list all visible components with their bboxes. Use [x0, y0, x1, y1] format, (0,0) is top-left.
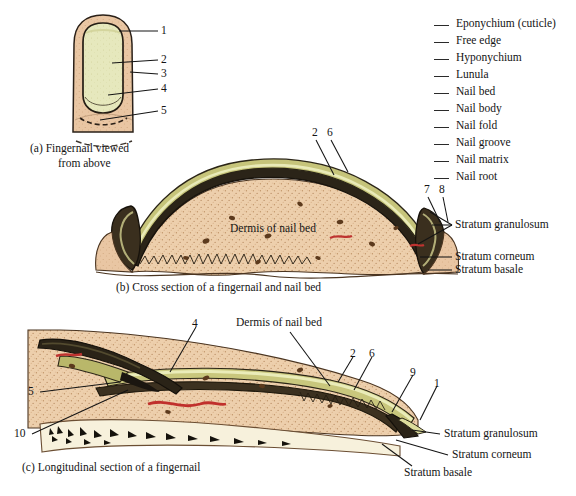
legend-label: Nail fold: [456, 119, 497, 131]
legend-label: Lunula: [456, 68, 489, 80]
panel-a-artwork: [73, 15, 158, 146]
legend-list: Eponychium (cuticle) Free edge Hyponychi…: [434, 14, 576, 194]
panel-c-artwork: [28, 327, 448, 466]
panel-c-stratum-basale-label: Stratum basale: [404, 466, 472, 479]
legend-blank-icon[interactable]: [434, 42, 449, 43]
panel-c-number-9: 9: [410, 366, 416, 378]
panel-a-number-3: 3: [161, 67, 167, 79]
panel-b-stratum-corneum-label: Stratum corneum: [455, 250, 535, 263]
legend-item-nail-bed[interactable]: Nail bed: [434, 82, 495, 99]
panel-a-number-4: 4: [161, 82, 167, 94]
panel-c-number-10: 10: [14, 427, 26, 439]
legend-blank-icon[interactable]: [434, 144, 449, 145]
legend-label: Free edge: [456, 34, 501, 46]
legend-blank-icon[interactable]: [434, 127, 449, 128]
legend-label: Nail body: [456, 102, 502, 114]
panel-c-number-1: 1: [434, 377, 440, 389]
legend-blank-icon[interactable]: [434, 25, 449, 26]
panel-c-stratum-corneum-label: Stratum corneum: [452, 448, 532, 461]
panel-c-stratum-granulosum-label: Stratum granulosum: [444, 427, 538, 440]
legend-blank-icon[interactable]: [434, 161, 449, 162]
panel-b-dermis-label: Dermis of nail bed: [230, 222, 316, 235]
legend-blank-icon[interactable]: [434, 178, 449, 179]
legend-item-hyponychium[interactable]: Hyponychium: [434, 48, 522, 65]
legend-label: Eponychium (cuticle): [456, 17, 556, 29]
panel-a-number-1: 1: [161, 24, 167, 36]
panel-a-caption-line1: (a) Fingernail viewed: [30, 142, 129, 154]
panel-c-number-4: 4: [192, 317, 198, 329]
panel-a-number-5: 5: [161, 104, 167, 116]
legend-label: Nail matrix: [456, 153, 509, 165]
panel-c-number-5: 5: [28, 385, 34, 397]
legend-label: Nail bed: [456, 85, 495, 97]
legend-item-free-edge[interactable]: Free edge: [434, 31, 501, 48]
legend-item-nail-root[interactable]: Nail root: [434, 167, 497, 184]
legend-item-nail-fold[interactable]: Nail fold: [434, 116, 497, 133]
panel-a-caption-line2: from above: [58, 157, 111, 169]
panel-b-number-7: 7: [424, 183, 430, 195]
legend-label: Nail groove: [456, 136, 511, 148]
legend-item-nail-body[interactable]: Nail body: [434, 99, 502, 116]
panel-c-caption: (c) Longitudinal section of a fingernail: [22, 461, 201, 473]
legend-item-lunula[interactable]: Lunula: [434, 65, 489, 82]
legend-item-nail-matrix[interactable]: Nail matrix: [434, 150, 509, 167]
panel-b-caption: (b) Cross section of a fingernail and na…: [116, 281, 321, 293]
legend-blank-icon[interactable]: [434, 76, 449, 77]
panel-b-number-2: 2: [312, 126, 318, 138]
legend-label: Nail root: [456, 170, 497, 182]
panel-b-stratum-granulosum-label: Stratum granulosum: [455, 218, 549, 231]
legend-blank-icon[interactable]: [434, 110, 449, 111]
legend-blank-icon[interactable]: [434, 59, 449, 60]
panel-b-stratum-basale-label: Stratum basale: [455, 263, 523, 276]
panel-b-artwork: [96, 140, 459, 278]
legend-blank-icon[interactable]: [434, 93, 449, 94]
panel-b-number-6: 6: [327, 126, 333, 138]
panel-c-number-6: 6: [369, 347, 375, 359]
panel-c-dermis-label: Dermis of nail bed: [236, 316, 322, 329]
legend-label: Hyponychium: [456, 51, 522, 63]
panel-c-number-2: 2: [350, 347, 356, 359]
legend-item-eponychium[interactable]: Eponychium (cuticle): [434, 14, 556, 31]
panel-a-number-2: 2: [161, 53, 167, 65]
legend-item-nail-groove[interactable]: Nail groove: [434, 133, 511, 150]
